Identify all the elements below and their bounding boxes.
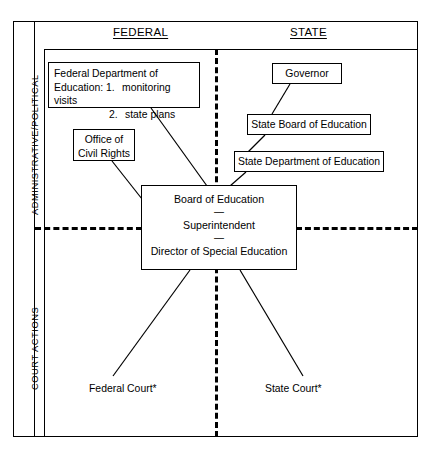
- node-ocr-line1: Office of: [74, 133, 134, 147]
- column-header-federal: FEDERAL: [113, 26, 168, 38]
- node-federal-doe-item2-text: state plans: [125, 109, 175, 120]
- horizontal-dashed-divider-right: [296, 227, 418, 230]
- node-local-board-row2: Superintendent: [142, 218, 296, 233]
- node-state-board-of-education: State Board of Education: [247, 114, 371, 135]
- node-federal-doe-line2-prefix: Education:: [54, 82, 103, 93]
- node-office-of-civil-rights: Office of Civil Rights: [73, 129, 135, 161]
- node-federal-doe-item1-num: 1.: [106, 81, 122, 95]
- node-local-board-of-education: Board of Education — Superintendent — Di…: [141, 185, 297, 270]
- node-federal-department-of-education: Federal Department of Education: 1.monit…: [48, 62, 200, 108]
- horizontal-dashed-divider-left: [35, 227, 142, 230]
- label-federal-court: Federal Court*: [89, 383, 157, 394]
- node-federal-doe-line1: Federal Department of: [54, 67, 194, 81]
- node-federal-doe-item2-num: 2.: [109, 108, 125, 122]
- governance-diagram: FEDERAL STATE ADMINISTRATIVE/POLITICAL C…: [0, 0, 431, 449]
- node-ocr-line2: Civil Rights: [74, 147, 134, 161]
- label-state-court: State Court*: [265, 383, 322, 394]
- node-federal-doe-line3: 2.state plans: [54, 108, 194, 122]
- row-label-court-actions-text: COURT ACTIONS: [30, 307, 40, 390]
- node-local-board-separator1: —: [142, 207, 296, 218]
- node-state-department-of-education: State Department of Education: [234, 151, 384, 172]
- row-label-administrative-political-text: ADMINISTRATIVE/POLITICAL: [30, 74, 40, 215]
- node-local-board-row1: Board of Education: [142, 192, 296, 207]
- node-governor: Governor: [272, 63, 342, 84]
- node-local-board-row3: Director of Special Education: [142, 244, 296, 259]
- node-federal-doe-line2: Education: 1.monitoring visits: [54, 81, 194, 108]
- column-header-state: STATE: [290, 26, 327, 38]
- node-local-board-separator2: —: [142, 233, 296, 244]
